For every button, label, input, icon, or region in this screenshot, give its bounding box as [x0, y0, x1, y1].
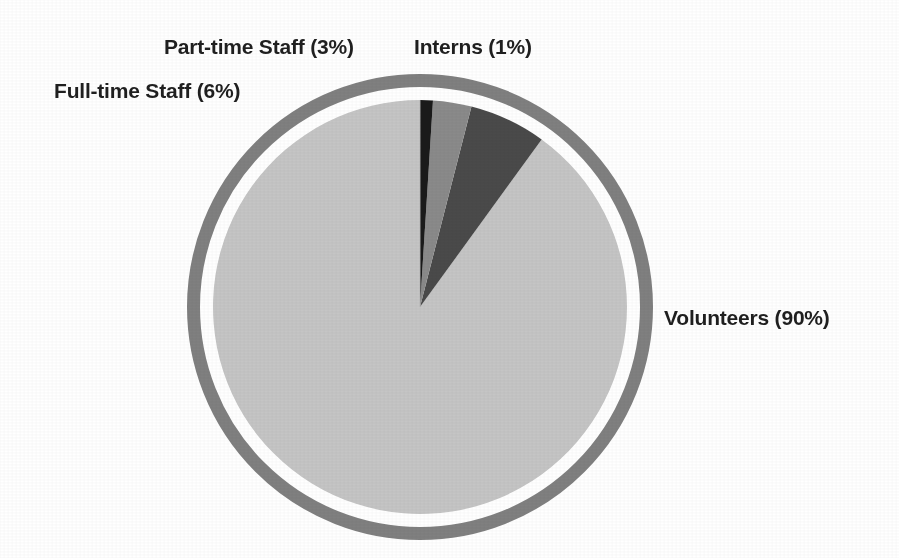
slice-label-part-time-staff: Part-time Staff (3%) — [164, 36, 354, 57]
slice-label-full-time-staff: Full-time Staff (6%) — [54, 80, 240, 101]
pie-chart-figure: Part-time Staff (3%) Interns (1%) Full-t… — [0, 0, 899, 558]
slice-label-volunteers: Volunteers (90%) — [664, 307, 830, 328]
slice-label-interns: Interns (1%) — [414, 36, 532, 57]
